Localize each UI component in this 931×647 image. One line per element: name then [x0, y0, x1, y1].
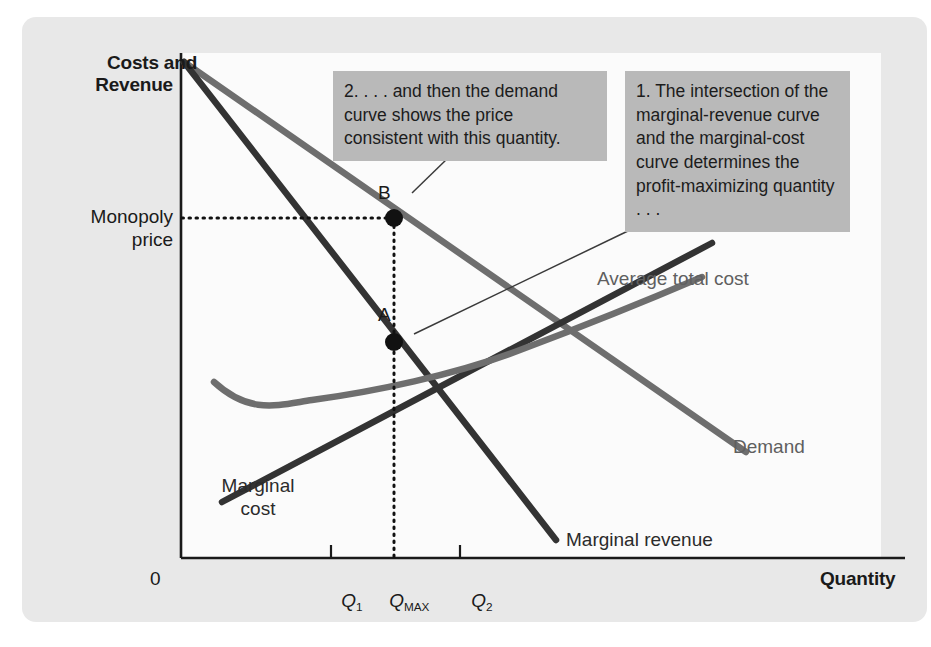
tick-label-q2-base: Q — [471, 590, 486, 611]
tick-label-q1-base: Q — [341, 590, 356, 611]
demand-label: Demand — [733, 436, 805, 458]
monopoly-price-label-line1: Monopoly — [63, 206, 173, 228]
tick-label-q2: Q2 — [450, 568, 492, 635]
tick-label-qmax-sub: MAX — [404, 600, 430, 613]
point-b-marker — [385, 209, 403, 227]
average-total-cost-label: Average total cost — [597, 268, 749, 290]
tick-label-qmax-base: Q — [389, 590, 404, 611]
x-axis-title: Quantity — [820, 568, 895, 590]
marginal-cost-label-line1: Marginal — [204, 475, 312, 497]
point-b-label: B — [378, 182, 391, 204]
tick-label-q1: Q1 — [320, 568, 362, 635]
callout-2: 2. . . . and then the demand curve shows… — [333, 71, 607, 161]
origin-label: 0 — [150, 568, 161, 590]
tick-label-qmax: QMAX — [368, 568, 429, 635]
callout-1: 1. The intersection of the marginal-reve… — [625, 71, 850, 232]
tick-label-q1-sub: 1 — [356, 600, 363, 613]
tick-label-q2-sub: 2 — [486, 600, 493, 613]
y-axis-title-line1: Costs and — [107, 52, 173, 74]
marginal-cost-label-line2: cost — [204, 498, 312, 520]
point-a-marker — [385, 333, 403, 351]
y-axis-title-line2: Revenue — [93, 74, 173, 96]
point-a-label: A — [378, 304, 391, 326]
figure-page: Costs and Revenue Monopoly price 0 Q1 QM… — [0, 0, 931, 647]
marginal-revenue-label: Marginal revenue — [566, 529, 713, 551]
monopoly-price-label-line2: price — [63, 229, 173, 251]
